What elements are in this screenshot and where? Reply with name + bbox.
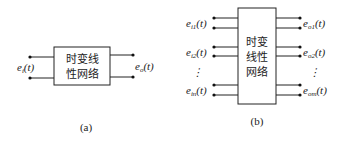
terminal-dot <box>131 53 134 56</box>
box-b-line-2: 线性 <box>246 50 268 64</box>
terminal-dot <box>28 55 31 58</box>
box-a-line-1: 时变线 <box>66 52 99 66</box>
output-label-b-m: eom(t) <box>303 84 327 98</box>
output-label-b-2: eo2(t) <box>303 46 326 60</box>
input-ellipsis-b: ⋮ <box>192 66 203 78</box>
box-b-line-3: 网络 <box>246 65 268 79</box>
output-terminals-b <box>298 16 301 96</box>
output-ellipsis-b: ⋮ <box>309 66 320 78</box>
output-wires-b <box>276 18 300 95</box>
box-a-line-2: 性网络 <box>66 67 99 81</box>
input-wires-b <box>214 18 238 95</box>
figure-b: 时变 线性 网络 <box>186 8 327 128</box>
output-label-b-1: eo1(t) <box>303 17 326 31</box>
input-label-b-2: ei2(t) <box>186 46 207 60</box>
diagram-canvas: 时变线 性网络 ei(t) eo(t) (a) 时变 线性 网络 <box>0 0 345 141</box>
input-label-b-n: ein(t) <box>186 84 207 98</box>
figure-a: 时变线 性网络 ei(t) eo(t) (a) <box>17 47 154 134</box>
input-label-a: ei(t) <box>17 61 35 75</box>
terminal-dot <box>131 75 134 78</box>
input-label-b-1: ei1(t) <box>186 17 207 31</box>
caption-b: (b) <box>251 115 264 128</box>
output-label-a: eo(t) <box>135 60 154 74</box>
caption-a: (a) <box>80 121 93 134</box>
terminal-dot <box>28 76 31 79</box>
box-b-line-1: 时变 <box>246 35 268 49</box>
input-terminals-b <box>212 16 215 96</box>
